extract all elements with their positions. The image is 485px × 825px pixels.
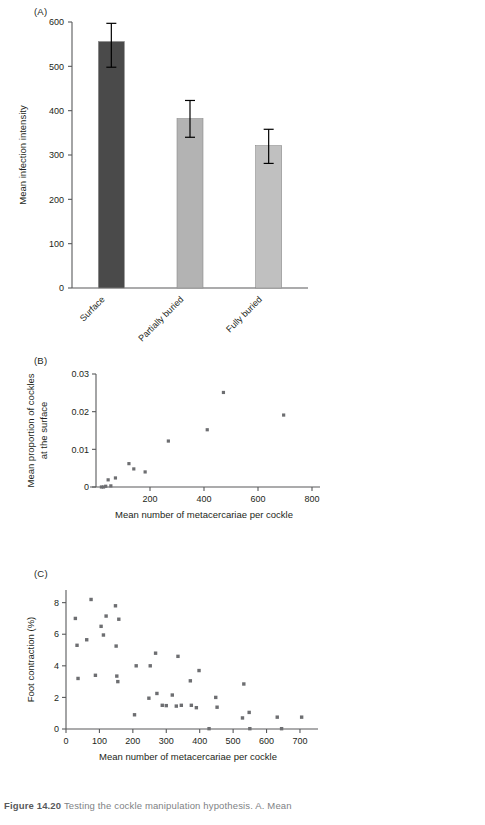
figure-caption-text: Testing the cockle manipulation hypothes…: [64, 800, 292, 811]
panel-c-data-point: [89, 598, 92, 601]
panel-a-y-tick-label: 0: [59, 283, 64, 293]
panel-c-data-point: [189, 679, 192, 682]
panel-c-data-point: [114, 604, 117, 607]
panel-b-x-tick-label: 800: [304, 494, 319, 504]
panel-b-data-point: [114, 476, 117, 479]
panel-c-data-point: [115, 674, 118, 677]
figure-caption: Figure 14.20 Testing the cockle manipula…: [4, 800, 482, 811]
panel-a-y-tick-label: 200: [49, 195, 64, 205]
panel-a-bar-chart: (A) 0100200300400500600Mean infection in…: [0, 0, 485, 350]
panel-c-data-point: [147, 696, 150, 699]
panel-b-scatter-chart: (B) 00.010.020.03200400600800Mean propor…: [0, 352, 485, 552]
panel-a-y-tick-label: 500: [49, 62, 64, 72]
panel-b-data-point: [167, 439, 170, 442]
panel-c-data-point: [214, 696, 217, 699]
panel-c-x-tick-label: 500: [226, 736, 241, 746]
panel-c-data-point: [94, 674, 97, 677]
panel-a-category-label: Partially buried: [136, 294, 185, 343]
panel-b-data-point: [206, 428, 209, 431]
panel-c-data-point: [171, 693, 174, 696]
panel-c-data-point: [99, 625, 102, 628]
panel-c-data-point: [176, 655, 179, 658]
panel-c-y-tick-label: 0: [54, 724, 59, 734]
panel-c-data-point: [134, 664, 137, 667]
panel-c-data-point: [195, 706, 198, 709]
panel-a-y-tick-label: 300: [49, 150, 64, 160]
panel-b-x-tick-label: 600: [250, 494, 265, 504]
panel-c-y-tick-label: 2: [54, 693, 59, 703]
panel-c-x-tick-label: 600: [259, 736, 274, 746]
panel-c-data-point: [215, 706, 218, 709]
panel-b-svg: 00.010.020.03200400600800Mean proportion…: [0, 352, 485, 552]
panel-a-y-tick-label: 100: [49, 239, 64, 249]
panel-a-y-tick-label: 600: [49, 17, 64, 27]
panel-b-y-axis-title-line1: Mean proportion of cockles: [25, 373, 36, 487]
panel-c-x-axis-title: Mean number of metacercariae per cockle: [99, 751, 277, 762]
panel-c-x-tick-label: 700: [292, 736, 307, 746]
panel-c-data-point: [161, 704, 164, 707]
panel-c-data-point: [76, 677, 79, 680]
panel-c-data-point: [75, 644, 78, 647]
panel-c-data-point: [248, 727, 251, 730]
panel-a-y-axis-title: Mean infection intensity: [17, 105, 28, 205]
panel-a-label: (A): [34, 6, 47, 17]
panel-c-data-point: [114, 644, 117, 647]
panel-c-data-point: [197, 669, 200, 672]
figure-caption-label: Figure 14.20: [4, 800, 61, 811]
panel-b-data-point: [144, 470, 147, 473]
panel-a-y-tick-label: 400: [49, 106, 64, 116]
panel-c-scatter-chart: (C) 024680100200300400500600700Foot cont…: [0, 566, 485, 796]
panel-c-data-point: [247, 711, 250, 714]
panel-c-data-point: [102, 633, 105, 636]
panel-c-data-point: [180, 704, 183, 707]
panel-b-data-point: [107, 478, 110, 481]
panel-c-data-point: [207, 727, 210, 730]
panel-c-y-tick-label: 8: [54, 598, 59, 608]
panel-c-data-point: [117, 618, 120, 621]
panel-b-y-tick-label: 0.02: [71, 407, 89, 417]
panel-b-y-tick-label: 0.01: [71, 445, 89, 455]
panel-a-bar: [256, 146, 282, 288]
panel-c-y-axis-title: Foot contraction (%): [25, 617, 36, 703]
panel-c-x-tick-label: 400: [192, 736, 207, 746]
panel-b-y-tick-label: 0.03: [71, 369, 89, 379]
panel-c-data-point: [149, 664, 152, 667]
panel-a-category-label: Surface: [78, 294, 107, 323]
panel-b-data-point: [132, 467, 135, 470]
panel-c-data-point: [175, 704, 178, 707]
panel-c-y-tick-label: 6: [54, 629, 59, 639]
panel-c-data-point: [300, 715, 303, 718]
panel-b-data-point: [104, 485, 107, 488]
panel-c-x-tick-label: 200: [125, 736, 140, 746]
panel-b-data-point: [282, 413, 285, 416]
panel-c-y-tick-label: 4: [54, 661, 59, 671]
panel-b-x-tick-label: 200: [142, 494, 157, 504]
panel-c-data-point: [116, 680, 119, 683]
panel-c-data-point: [104, 614, 107, 617]
panel-a-bar: [177, 119, 203, 288]
panel-b-y-axis-title-line2: at the surface: [38, 402, 49, 460]
panel-c-data-point: [242, 682, 245, 685]
panel-b-data-point: [127, 462, 130, 465]
panel-b-x-tick-label: 400: [196, 494, 211, 504]
panel-c-data-point: [241, 716, 244, 719]
panel-c-x-tick-label: 0: [63, 736, 68, 746]
panel-c-data-point: [85, 638, 88, 641]
panel-c-label: (C): [34, 568, 48, 579]
panel-c-x-tick-label: 300: [159, 736, 174, 746]
panel-c-data-point: [190, 704, 193, 707]
panel-b-label: (B): [34, 355, 47, 366]
panel-c-data-point: [165, 704, 168, 707]
panel-b-data-point: [222, 391, 225, 394]
panel-c-data-point: [133, 713, 136, 716]
panel-c-data-point: [276, 715, 279, 718]
panel-b-y-tick-label: 0: [84, 482, 89, 492]
panel-a-category-label: Fully buried: [224, 294, 264, 334]
panel-a-svg: 0100200300400500600Mean infection intens…: [0, 0, 485, 350]
panel-c-data-point: [154, 651, 157, 654]
panel-c-data-point: [280, 727, 283, 730]
panel-c-svg: 024680100200300400500600700Foot contract…: [0, 566, 485, 796]
panel-b-x-axis-title: Mean number of metacercariae per cockle: [115, 509, 293, 520]
panel-c-x-tick-label: 100: [92, 736, 107, 746]
panel-c-data-point: [74, 617, 77, 620]
